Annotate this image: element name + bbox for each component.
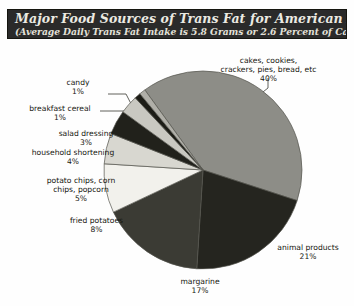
slice-percent-candy: 1% bbox=[48, 87, 108, 96]
slice-percent-breakfast-cereal: 1% bbox=[20, 113, 100, 122]
slice-percent-animal-products: 21% bbox=[268, 252, 348, 261]
slice-label-household-shortening-line1: household shortening bbox=[32, 148, 114, 157]
pie-slices-group bbox=[104, 71, 302, 269]
slice-label-breakfast-cereal: breakfast cereal 1% bbox=[20, 104, 100, 122]
slice-label-breakfast-cereal-line1: breakfast cereal bbox=[29, 104, 90, 113]
slice-label-candy: candy 1% bbox=[48, 78, 108, 96]
slice-label-fried-potatoes: fried potatoes 8% bbox=[58, 216, 135, 234]
slice-percent-household-shortening: 4% bbox=[20, 157, 126, 166]
slice-label-household-shortening: household shortening 4% bbox=[20, 148, 126, 166]
slice-label-fried-potatoes-line1: fried potatoes bbox=[70, 216, 123, 225]
slice-label-potato-chips-line1: potato chips, corn bbox=[47, 176, 115, 185]
slice-label-salad-dressing-line1: salad dressing bbox=[59, 129, 114, 138]
slice-label-potato-chips-line2: chips, popcorn bbox=[53, 185, 109, 194]
slice-percent-cakes-cookies: 40% bbox=[199, 74, 338, 83]
slice-label-margarine: margarine 17% bbox=[160, 277, 240, 295]
slice-label-candy-line1: candy bbox=[67, 78, 90, 87]
slice-label-cakes-cookies: cakes, cookies, crackers, pies, bread, e… bbox=[199, 56, 338, 84]
slice-label-potato-chips: potato chips, corn chips, popcorn 5% bbox=[34, 176, 128, 204]
slice-label-cakes-cookies-line1: cakes, cookies, bbox=[240, 56, 297, 65]
chart-page: Major Food Sources of Trans Fat for Amer… bbox=[0, 0, 354, 306]
slice-label-animal-products: animal products 21% bbox=[268, 243, 348, 261]
slice-label-animal-products-line1: animal products bbox=[277, 243, 338, 252]
slice-percent-fried-potatoes: 8% bbox=[58, 225, 135, 234]
slice-label-margarine-line1: margarine bbox=[180, 277, 219, 286]
slice-percent-margarine: 17% bbox=[160, 286, 240, 295]
slice-label-cakes-cookies-line2: crackers, pies, bread, etc bbox=[221, 65, 317, 74]
slice-percent-potato-chips: 5% bbox=[34, 194, 128, 203]
slice-label-salad-dressing: salad dressing 3% bbox=[48, 129, 124, 147]
slice-percent-salad-dressing: 3% bbox=[48, 138, 124, 147]
